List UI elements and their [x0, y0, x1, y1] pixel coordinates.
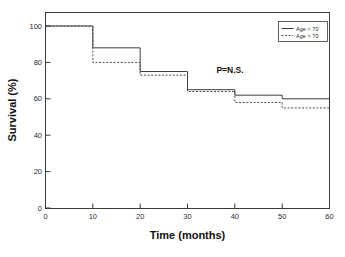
x-tick-label-20: 20 — [136, 212, 144, 221]
y-tick-label-0: 0 — [38, 204, 42, 213]
x-tick-label-60: 60 — [325, 212, 333, 221]
y-axis-title: Survival (%) — [6, 78, 18, 141]
y-axis-tick-labels: 100 80 60 40 20 0 — [29, 22, 42, 213]
x-axis-tick-labels: 0 10 20 30 40 50 60 — [43, 212, 333, 221]
x-tick-label-0: 0 — [43, 212, 47, 221]
chart-legend: Age < 70 Age > 70 — [279, 22, 328, 42]
x-tick-label-40: 40 — [231, 212, 239, 221]
y-tick-label-40: 40 — [34, 131, 42, 140]
x-tick-label-50: 50 — [278, 212, 286, 221]
y-tick-label-20: 20 — [34, 167, 42, 176]
y-axis-ticks — [46, 26, 51, 208]
chart-canvas: 100 80 60 40 20 0 0 10 20 30 40 50 60 — [0, 0, 345, 257]
significance-annotation: P=N.S. — [216, 65, 243, 75]
y-tick-label-80: 80 — [34, 58, 42, 67]
plot-frame — [46, 13, 330, 209]
legend-label-age-lt-70: Age < 70 — [296, 26, 319, 32]
y-tick-label-60: 60 — [34, 94, 42, 103]
legend-label-age-gt-70: Age > 70 — [296, 33, 319, 39]
y-tick-label-100: 100 — [29, 22, 42, 31]
x-tick-label-10: 10 — [89, 212, 97, 221]
x-axis-ticks — [46, 204, 330, 209]
survival-chart-figure: 100 80 60 40 20 0 0 10 20 30 40 50 60 — [0, 0, 345, 257]
x-axis-title: Time (months) — [150, 229, 226, 241]
x-tick-label-30: 30 — [183, 212, 191, 221]
